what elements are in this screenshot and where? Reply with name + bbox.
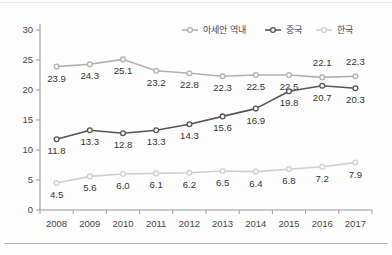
data-label: 20.7 [313, 92, 332, 103]
data-label: 11.8 [48, 145, 66, 156]
x-tick-label: 2017 [345, 218, 366, 229]
data-point [253, 73, 258, 78]
data-label: 6.2 [183, 179, 196, 190]
y-tick-label: 20 [22, 84, 33, 95]
data-point [220, 169, 225, 174]
data-label: 12.8 [114, 139, 133, 150]
y-tick-label: 30 [22, 24, 33, 35]
data-point [54, 181, 59, 186]
data-point [287, 89, 292, 94]
data-label: 6.0 [116, 180, 129, 191]
series-line-2 [57, 163, 356, 183]
legend-marker-dot-0 [188, 28, 193, 33]
x-tick-label: 2009 [79, 218, 100, 229]
data-label: 7.2 [316, 173, 329, 184]
data-label: 6.5 [216, 177, 229, 188]
data-label: 14.3 [180, 130, 199, 141]
data-label: 23.2 [147, 77, 166, 88]
data-label: 19.8 [280, 97, 299, 108]
y-tick-label: 15 [22, 114, 33, 125]
x-tick-label: 2008 [46, 218, 67, 229]
data-label: 15.6 [213, 122, 232, 133]
data-label: 13.3 [147, 136, 166, 147]
data-point [187, 170, 192, 175]
data-point [320, 75, 325, 80]
line-chart: 0510152025302008200920102011201220132014… [0, 0, 392, 255]
data-point [287, 73, 292, 78]
data-label: 22.5 [246, 81, 265, 92]
x-tick-label: 2011 [146, 218, 166, 229]
data-point [121, 131, 126, 136]
y-tick-label: 25 [22, 54, 33, 65]
data-label: 22.3 [213, 82, 232, 93]
x-tick-label: 2012 [179, 218, 200, 229]
legend-marker-dot-1 [271, 28, 276, 33]
legend-label-2: 한국 [337, 25, 353, 35]
chart-canvas: 0510152025302008200920102011201220132014… [0, 0, 392, 255]
data-label: 7.9 [349, 169, 362, 180]
data-label: 25.1 [114, 65, 133, 76]
data-point [87, 174, 92, 179]
data-point [154, 128, 159, 133]
data-point [87, 128, 92, 133]
data-label: 22.8 [180, 79, 199, 90]
data-label: 4.5 [50, 189, 63, 200]
data-label: 24.3 [80, 70, 99, 81]
x-tick-label: 2013 [212, 218, 233, 229]
data-label: 23.9 [47, 73, 66, 84]
legend-label-1: 중국 [286, 25, 302, 35]
data-label: 22.3 [346, 56, 365, 67]
data-point [253, 169, 258, 174]
legend-label-0: 아세안 역내 [203, 25, 246, 35]
data-point [87, 62, 92, 67]
x-tick-label: 2016 [312, 218, 333, 229]
data-point [121, 172, 126, 177]
data-point [320, 164, 325, 169]
x-tick-label: 2014 [245, 218, 266, 229]
series-line-1 [57, 86, 356, 139]
data-point [220, 74, 225, 79]
data-label: 6.8 [282, 175, 295, 186]
data-point [54, 137, 59, 142]
data-point [121, 57, 126, 62]
x-tick-label: 2015 [278, 218, 299, 229]
data-label: 6.4 [249, 178, 263, 189]
data-point [187, 71, 192, 76]
data-point [154, 68, 159, 73]
y-tick-label: 5 [28, 174, 33, 185]
data-point [353, 160, 358, 165]
data-label: 20.3 [346, 94, 365, 105]
data-label: 16.9 [246, 115, 265, 126]
x-tick-label: 2010 [112, 218, 133, 229]
data-label: 13.3 [80, 136, 99, 147]
bottom-divider [4, 243, 388, 244]
data-point [253, 106, 258, 111]
legend-marker-dot-2 [322, 28, 327, 33]
top-divider [0, 2, 392, 3]
data-label: 22.1 [313, 57, 332, 68]
data-label: 6.1 [150, 179, 163, 190]
y-tick-label: 0 [28, 204, 33, 215]
data-label: 5.6 [83, 182, 96, 193]
data-point [220, 114, 225, 119]
data-point [320, 83, 325, 88]
data-point [187, 122, 192, 127]
y-tick-label: 10 [22, 144, 33, 155]
data-point [54, 64, 59, 69]
series-line-0 [57, 59, 356, 77]
data-point [287, 167, 292, 172]
data-point [353, 74, 358, 79]
data-point [353, 86, 358, 91]
data-point [154, 171, 159, 176]
